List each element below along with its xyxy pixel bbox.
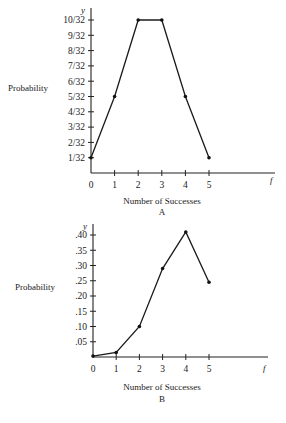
y-tick-label: .40 [75, 230, 87, 240]
x-tick-label: 2 [137, 364, 142, 374]
data-point [184, 230, 188, 234]
x-variable-label: f [263, 363, 267, 373]
y-axis-title: Probability [8, 83, 48, 93]
y-tick-label: .25 [75, 276, 87, 286]
x-tick-label: 1 [112, 180, 117, 190]
x-tick-label: 3 [160, 364, 165, 374]
y-tick-label: 2/32 [68, 138, 85, 148]
chart-canvas: y1/322/323/324/325/326/327/328/329/3210/… [0, 0, 286, 423]
x-axis-title: Number of Successes [123, 382, 201, 392]
y-tick-label: .15 [75, 307, 87, 317]
y-tick-label: .10 [75, 322, 87, 332]
probability-series-line [93, 232, 209, 356]
data-point [160, 18, 164, 22]
y-tick-label: 5/32 [68, 92, 85, 102]
data-point [184, 95, 188, 99]
x-tick-label: 0 [91, 364, 96, 374]
data-point [113, 95, 117, 99]
chart-caption: A [159, 207, 166, 217]
x-tick-label: 2 [136, 180, 141, 190]
y-tick-label: .35 [75, 246, 87, 256]
y-tick-label: 9/32 [68, 31, 85, 41]
y-tick-label: 4/32 [68, 107, 85, 117]
y-tick-label: 6/32 [68, 77, 85, 87]
data-point [207, 280, 211, 284]
x-axis-title: Number of Successes [123, 196, 201, 206]
probability-series-line [91, 20, 209, 158]
data-point [207, 156, 211, 160]
chart-b: y.05.10.15.20.25.30.35.40012345fProbabil… [15, 221, 268, 404]
x-tick-label: 4 [183, 180, 188, 190]
x-tick-label: 0 [89, 180, 94, 190]
chart-caption: B [159, 394, 165, 404]
data-point [138, 325, 142, 329]
y-variable-label: y [80, 5, 85, 15]
x-tick-label: 4 [183, 364, 188, 374]
data-point [91, 354, 95, 358]
y-tick-label: .20 [75, 291, 87, 301]
data-point [114, 351, 118, 355]
y-tick-label: .05 [75, 337, 87, 347]
data-point [89, 156, 93, 160]
x-tick-label: 5 [207, 364, 212, 374]
y-tick-label: 7/32 [68, 61, 85, 71]
data-point [161, 267, 165, 271]
data-point [136, 18, 140, 22]
x-tick-label: 5 [207, 180, 212, 190]
y-axis-title: Probability [15, 282, 55, 292]
x-variable-label: f [270, 175, 274, 185]
y-tick-label: .30 [75, 261, 87, 271]
x-tick-label: 1 [114, 364, 119, 374]
y-tick-label: 10/32 [63, 15, 85, 25]
y-tick-label: 1/32 [68, 153, 85, 163]
chart-a: y1/322/323/324/325/326/327/328/329/3210/… [8, 5, 275, 217]
y-tick-label: 3/32 [68, 122, 85, 132]
y-tick-label: 8/32 [68, 46, 85, 56]
x-tick-label: 3 [159, 180, 164, 190]
